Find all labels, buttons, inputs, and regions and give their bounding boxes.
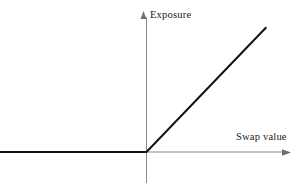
arrow-right-icon <box>282 149 291 155</box>
y-axis-label: Exposure <box>150 9 191 20</box>
x-axis-label: Swap value <box>236 131 287 142</box>
arrow-up-icon <box>141 11 147 19</box>
chart-canvas <box>0 0 297 187</box>
exposure-curve <box>0 27 266 152</box>
exposure-profile-chart: Exposure Swap value <box>0 0 297 187</box>
